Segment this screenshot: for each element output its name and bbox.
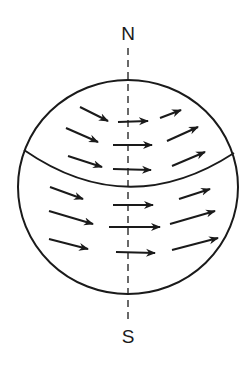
globe-diagram: N S bbox=[0, 0, 251, 365]
flow-arrow-icon bbox=[116, 252, 155, 253]
flow-arrow-icon bbox=[49, 211, 93, 224]
south-label: S bbox=[122, 326, 135, 347]
flow-arrow-icon bbox=[80, 107, 108, 121]
north-label: N bbox=[121, 23, 135, 44]
flow-arrow-icon bbox=[179, 189, 210, 199]
flow-arrow-icon bbox=[172, 152, 205, 166]
flow-arrow-icon bbox=[50, 187, 83, 199]
latitude-boundary-curve bbox=[24, 150, 234, 187]
flow-arrow-icon bbox=[160, 110, 181, 118]
flow-arrow-icon bbox=[66, 128, 98, 142]
flow-arrow-icon bbox=[172, 238, 218, 250]
flow-arrow-icon bbox=[68, 156, 102, 167]
flow-arrow-icon bbox=[49, 239, 88, 249]
flow-arrow-icon bbox=[170, 211, 215, 224]
flow-arrows bbox=[49, 107, 218, 253]
flow-arrow-icon bbox=[118, 121, 148, 122]
flow-arrow-icon bbox=[113, 169, 151, 170]
flow-arrow-icon bbox=[167, 127, 198, 141]
